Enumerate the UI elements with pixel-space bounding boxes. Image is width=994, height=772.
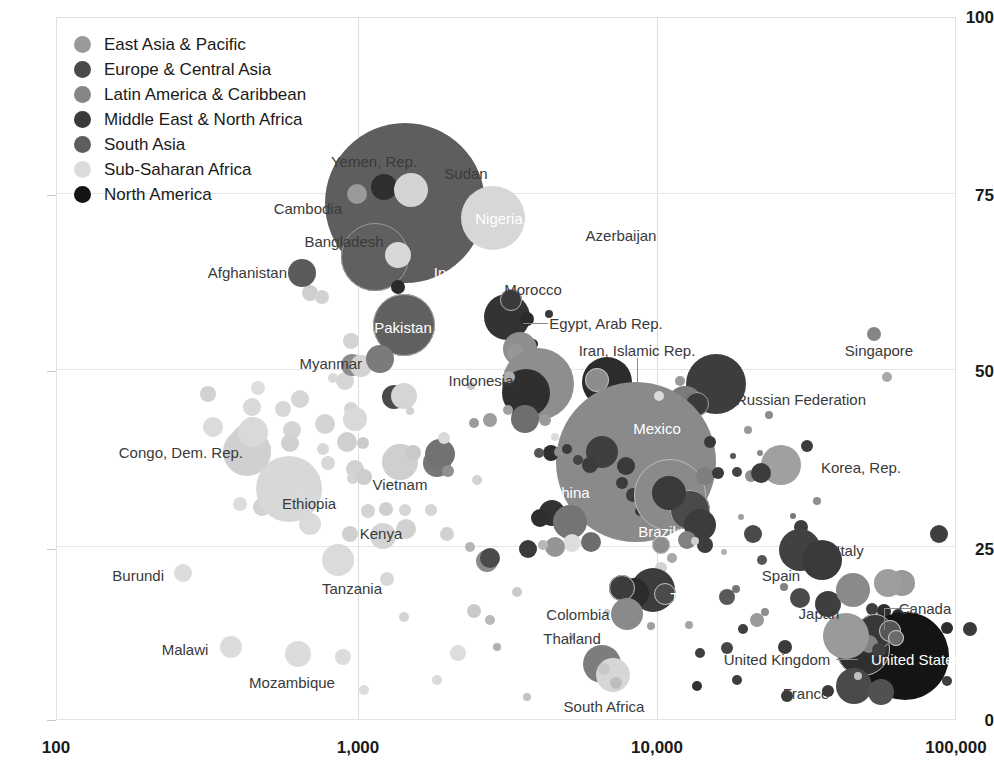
data-bubble[interactable] [704, 436, 716, 448]
data-bubble[interactable] [512, 587, 522, 597]
data-bubble[interactable] [691, 537, 699, 545]
data-bubble[interactable] [780, 583, 788, 591]
data-bubble[interactable] [485, 615, 495, 625]
data-bubble[interactable] [874, 569, 902, 597]
data-bubble[interactable] [356, 469, 372, 485]
data-bubble[interactable] [941, 622, 953, 634]
legend-item-2[interactable]: Latin America & Caribbean [74, 82, 306, 107]
data-bubble[interactable] [519, 540, 537, 558]
data-bubble[interactable] [342, 526, 358, 542]
data-bubble[interactable] [617, 457, 635, 475]
data-bubble[interactable] [836, 573, 870, 607]
data-bubble[interactable] [647, 622, 655, 630]
data-bubble[interactable] [425, 439, 455, 469]
data-bubble[interactable] [299, 513, 321, 535]
data-bubble[interactable] [942, 676, 952, 686]
data-bubble[interactable] [379, 502, 393, 516]
data-bubble[interactable] [399, 612, 409, 622]
data-bubble[interactable] [243, 398, 261, 416]
legend-item-0[interactable]: East Asia & Pacific [74, 32, 306, 57]
data-bubble[interactable] [744, 426, 752, 434]
data-bubble[interactable] [562, 444, 572, 454]
data-bubble[interactable] [343, 407, 367, 431]
data-bubble[interactable] [611, 598, 643, 630]
data-bubble[interactable] [738, 624, 748, 634]
data-bubble[interactable] [394, 173, 428, 207]
data-bubble[interactable] [467, 604, 481, 618]
data-bubble[interactable] [882, 372, 892, 382]
data-bubble[interactable] [425, 504, 437, 516]
data-bubble[interactable] [551, 433, 559, 441]
data-bubble[interactable] [531, 509, 549, 527]
data-bubble[interactable] [667, 553, 677, 563]
data-bubble[interactable] [285, 641, 311, 667]
data-bubble[interactable] [385, 242, 411, 268]
data-bubble[interactable] [732, 675, 742, 685]
data-bubble[interactable] [450, 645, 466, 661]
data-bubble[interactable] [220, 636, 242, 658]
data-bubble[interactable] [440, 527, 454, 541]
data-bubble[interactable] [721, 549, 727, 555]
data-bubble[interactable] [399, 504, 411, 516]
legend-item-1[interactable]: Europe & Central Asia [74, 57, 306, 82]
data-bubble[interactable] [790, 513, 796, 519]
data-bubble[interactable] [751, 463, 771, 483]
data-bubble[interactable] [200, 386, 216, 402]
data-bubble[interactable] [291, 390, 309, 408]
data-bubble[interactable] [854, 672, 862, 680]
data-bubble[interactable] [563, 534, 581, 552]
data-bubble[interactable] [432, 675, 442, 685]
legend-item-5[interactable]: Sub-Saharan Africa [74, 157, 306, 182]
data-bubble[interactable] [765, 411, 773, 419]
data-bubble[interactable] [483, 413, 497, 427]
data-bubble[interactable] [581, 532, 601, 552]
data-bubble[interactable] [654, 391, 664, 401]
data-bubble[interactable] [335, 649, 351, 665]
data-bubble[interactable] [442, 465, 454, 477]
data-bubble[interactable] [868, 679, 894, 705]
data-bubble[interactable] [738, 514, 744, 520]
data-bubble[interactable] [469, 418, 479, 428]
legend-item-4[interactable]: South Asia [74, 132, 306, 157]
legend-item-3[interactable]: Middle East & North Africa [74, 107, 306, 132]
data-bubble[interactable] [343, 333, 359, 349]
data-bubble[interactable] [359, 685, 369, 695]
data-bubble[interactable] [695, 648, 705, 658]
data-bubble[interactable] [757, 555, 767, 565]
data-bubble[interactable] [813, 497, 821, 505]
data-bubble[interactable] [963, 622, 977, 636]
data-bubble[interactable] [275, 401, 291, 417]
data-bubble[interactable] [511, 405, 539, 433]
data-bubble[interactable] [730, 453, 736, 459]
data-bubble[interactable] [744, 525, 762, 543]
data-bubble[interactable] [685, 621, 693, 629]
data-bubble[interactable] [493, 643, 501, 651]
data-bubble[interactable] [281, 434, 299, 452]
data-bubble[interactable] [322, 544, 354, 576]
data-bubble[interactable] [438, 432, 450, 444]
data-bubble[interactable] [203, 417, 223, 437]
data-bubble[interactable] [406, 407, 414, 415]
data-bubble[interactable] [696, 467, 714, 485]
data-bubble[interactable] [380, 572, 394, 586]
data-bubble[interactable] [652, 476, 686, 510]
data-bubble[interactable] [391, 280, 405, 294]
data-bubble[interactable] [732, 467, 742, 477]
data-bubble[interactable] [391, 383, 417, 409]
data-bubble[interactable] [750, 613, 764, 627]
data-bubble[interactable] [347, 184, 367, 204]
data-bubble[interactable] [712, 467, 724, 479]
data-bubble[interactable] [317, 443, 329, 455]
data-bubble[interactable] [480, 548, 500, 568]
data-bubble[interactable] [801, 440, 813, 452]
data-bubble[interactable] [538, 540, 548, 550]
data-bubble[interactable] [472, 475, 482, 485]
data-bubble[interactable] [371, 174, 397, 200]
data-bubble[interactable] [610, 677, 622, 689]
data-bubble[interactable] [719, 589, 735, 605]
data-bubble[interactable] [288, 259, 316, 287]
data-bubble[interactable] [361, 504, 375, 518]
data-bubble[interactable] [315, 414, 335, 434]
data-bubble[interactable] [697, 537, 713, 553]
data-bubble[interactable] [930, 525, 948, 543]
